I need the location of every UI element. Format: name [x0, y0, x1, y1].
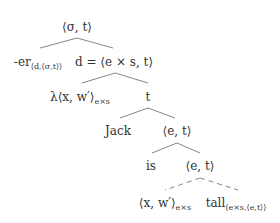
node-root-label: ⟨σ, t⟩ [62, 20, 92, 34]
tree-edges [0, 0, 280, 223]
node-jack: Jack [105, 124, 131, 138]
node-er: -er⟨d,⟨σ,t⟩⟩ [14, 55, 62, 74]
edge-t-et1 [148, 108, 175, 118]
edge-et1-et2 [177, 143, 200, 153]
node-et1-label: ⟨e, t⟩ [163, 124, 192, 138]
node-lambda: λ⟨x, w′⟩e×s [50, 90, 110, 109]
node-er-subscript: ⟨d,⟨σ,t⟩⟩ [31, 62, 62, 71]
node-t-label: t [146, 90, 151, 104]
node-is-label: is [146, 159, 156, 173]
edge-et2-tall [200, 178, 238, 190]
node-lambda-label: λ⟨x, w′⟩ [50, 90, 94, 104]
node-jack-label: Jack [105, 124, 131, 138]
node-tall-label: tall [206, 196, 226, 210]
edge-root-d [77, 38, 113, 48]
edge-d-lambda [82, 73, 115, 83]
node-et1: ⟨e, t⟩ [163, 124, 192, 138]
node-is: is [146, 159, 156, 173]
node-t: t [146, 90, 151, 104]
node-d-label: d = ⟨e × s, t⟩ [75, 55, 153, 69]
node-lambda-subscript: e×s [94, 97, 110, 106]
node-et2-label: ⟨e, t⟩ [186, 159, 215, 173]
edge-root-er [40, 38, 77, 48]
edge-et1-is [152, 143, 177, 153]
node-tall: tall⟨e×s,⟨e,t⟩⟩ [206, 196, 267, 215]
node-root: ⟨σ, t⟩ [62, 20, 92, 34]
node-xw-label: ⟨x, w′⟩ [139, 196, 176, 210]
edge-t-jack [120, 108, 148, 118]
edge-d-t [115, 73, 148, 83]
node-et2: ⟨e, t⟩ [186, 159, 215, 173]
node-er-label: -er [14, 55, 31, 69]
node-tall-subscript: ⟨e×s,⟨e,t⟩⟩ [225, 203, 266, 212]
node-xw: ⟨x, w′⟩e×s [139, 196, 191, 215]
node-xw-subscript: e×s [176, 203, 192, 212]
node-d: d = ⟨e × s, t⟩ [75, 55, 153, 69]
edge-et2-xw [165, 178, 200, 190]
